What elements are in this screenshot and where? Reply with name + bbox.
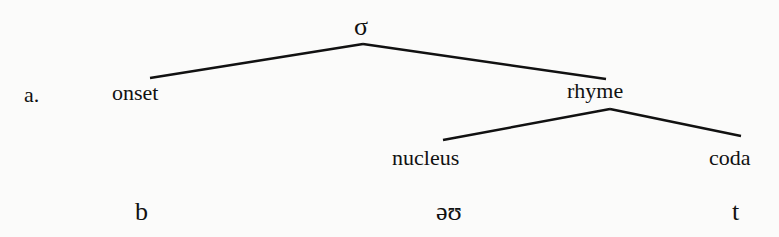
syllable-root-sigma: σ (354, 14, 368, 40)
node-rhyme: rhyme (567, 80, 623, 102)
node-nucleus: nucleus (392, 147, 459, 169)
node-onset: onset (112, 82, 158, 104)
edge-sigma-rhyme (363, 44, 606, 79)
tree-edges (0, 0, 779, 237)
edge-rhyme-nucleus (443, 109, 610, 140)
segment-ou: əʊ (436, 199, 462, 225)
example-label: a. (24, 84, 39, 106)
node-coda: coda (709, 147, 751, 169)
segment-b: b (135, 199, 148, 225)
edge-sigma-onset (150, 44, 363, 78)
edge-rhyme-coda (610, 109, 741, 136)
segment-t: t (732, 199, 739, 225)
